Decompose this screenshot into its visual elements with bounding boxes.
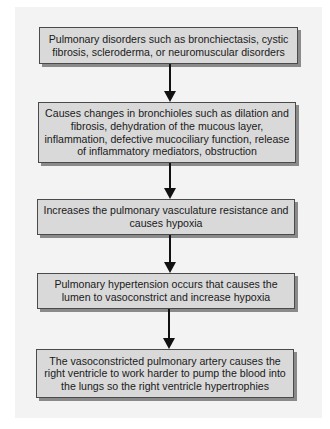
flow-step-3: Increases the pulmonary vasculature resi…	[37, 199, 295, 235]
flow-step-5: The vasoconstricted pulmonary artery cau…	[36, 349, 294, 398]
flow-step-2: Causes changes in bronchioles such as di…	[38, 102, 296, 163]
flow-step-3-text: Increases the pulmonary vasculature resi…	[42, 204, 290, 229]
flow-step-4: Pulmonary hypertension occurs that cause…	[37, 273, 295, 309]
arrow-down-icon	[164, 235, 176, 273]
arrow-down-icon	[163, 309, 175, 349]
flow-step-1-text: Pulmonary disorders such as bronchiectas…	[44, 33, 293, 58]
arrow-down-icon	[164, 163, 176, 199]
flow-step-4-text: Pulmonary hypertension occurs that cause…	[42, 278, 290, 303]
arrow-down-icon	[164, 64, 176, 102]
flow-step-2-text: Causes changes in bronchioles such as di…	[43, 107, 291, 157]
flow-step-5-text: The vasoconstricted pulmonary artery cau…	[41, 355, 289, 393]
flow-step-1: Pulmonary disorders such as bronchiectas…	[39, 27, 298, 64]
